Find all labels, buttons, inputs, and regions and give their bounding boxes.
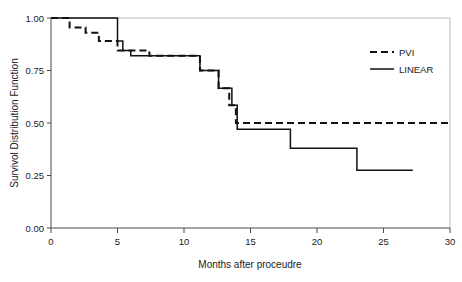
y-axis-title: Survivol Distribution Function (9, 58, 20, 188)
x-tick-label-1: 5 (115, 236, 120, 247)
survival-chart-figure: 0.000.250.500.751.00 051015202530 Surviv… (0, 0, 462, 282)
x-tick-label-5: 25 (378, 236, 389, 247)
x-tick-label-6: 30 (445, 236, 456, 247)
y-tick-label-2: 0.50 (26, 118, 45, 129)
y-tick-label-4: 1.00 (26, 13, 45, 24)
chart-legend: PVILINEAR (370, 47, 433, 75)
x-tick-label-4: 20 (312, 236, 323, 247)
series-curve-pvi (51, 18, 450, 123)
y-tick-label-1: 0.25 (26, 170, 45, 181)
y-axis-ticks: 0.000.250.500.751.00 (26, 13, 52, 234)
legend-label-pvi: PVI (399, 47, 414, 58)
y-tick-label-3: 0.75 (26, 65, 45, 76)
x-axis-title: Months after proceudre (198, 259, 302, 270)
survival-plot-svg: 0.000.250.500.751.00 051015202530 Surviv… (0, 0, 462, 282)
x-axis-ticks: 051015202530 (48, 228, 455, 247)
series-group (51, 18, 450, 170)
x-tick-label-3: 15 (245, 236, 256, 247)
y-tick-label-0: 0.00 (26, 223, 45, 234)
x-tick-label-2: 10 (179, 236, 190, 247)
x-tick-label-0: 0 (48, 236, 53, 247)
legend-label-linear: LINEAR (399, 64, 433, 75)
